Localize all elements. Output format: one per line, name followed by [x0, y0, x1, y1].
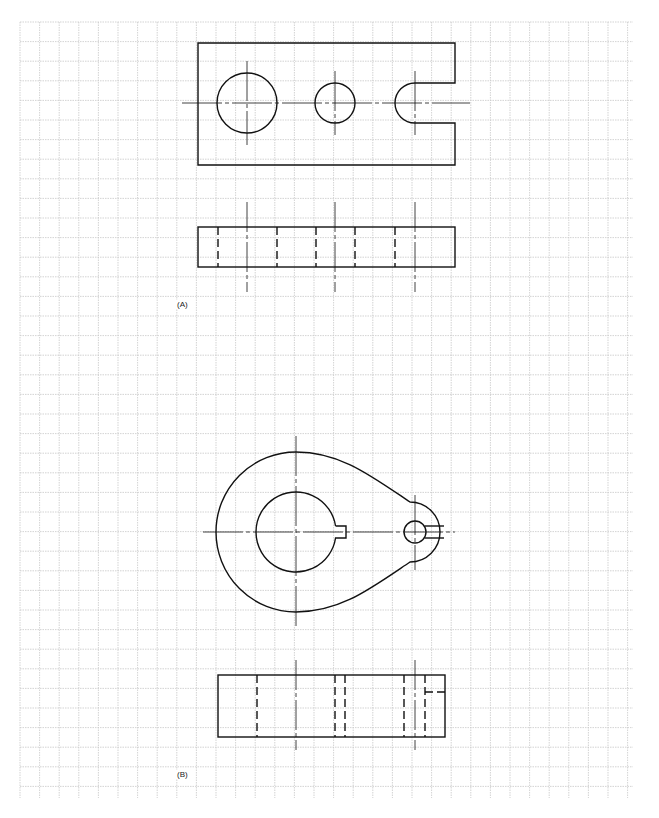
label-a: (A): [176, 300, 189, 309]
grid-background: [20, 22, 633, 798]
technical-drawing: [0, 0, 659, 818]
drawing-lines: [182, 43, 470, 750]
label-b: (B): [176, 770, 189, 779]
